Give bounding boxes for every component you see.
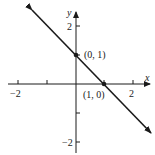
point-0-1 — [74, 53, 79, 58]
x-tick-label-2: 2 — [129, 88, 134, 99]
x-tick-label-neg2: −2 — [10, 88, 21, 99]
point-label-1-0: (1, 0) — [83, 89, 105, 101]
y-tick-label-neg2: −2 — [62, 137, 73, 148]
y-tick-label-2: 2 — [67, 21, 72, 32]
y-axis-label: y — [66, 7, 72, 18]
point-1-0 — [102, 82, 107, 87]
graph: x y −2 2 2 −2 (0, 1) (1, 0) — [0, 0, 155, 155]
function-line — [32, 10, 151, 133]
x-axis-label: x — [144, 72, 150, 83]
point-label-0-1: (0, 1) — [84, 49, 106, 61]
